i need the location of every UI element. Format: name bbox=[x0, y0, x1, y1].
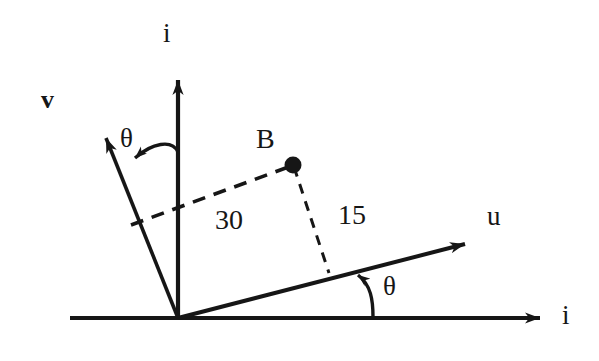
diagram-canvas bbox=[0, 0, 599, 361]
distance-15-dashed-line bbox=[294, 167, 329, 273]
horizontal-i-axis-label: i bbox=[562, 302, 570, 329]
upper-theta-arc bbox=[135, 144, 178, 158]
point-b-label: B bbox=[256, 125, 275, 153]
lower-theta-arc bbox=[358, 275, 373, 317]
vector-diagram: i i u v B θ θ 30 15 bbox=[0, 0, 599, 361]
v-axis-line bbox=[106, 138, 178, 318]
distance-30-label: 30 bbox=[215, 206, 243, 234]
vertical-i-axis-label: i bbox=[163, 20, 171, 47]
v-axis-label: v bbox=[41, 87, 54, 113]
u-axis-line bbox=[178, 244, 465, 318]
point-b-marker bbox=[285, 157, 302, 174]
distance-15-label: 15 bbox=[338, 201, 366, 229]
upper-theta-label: θ bbox=[120, 125, 133, 152]
distance-30-dashed-line bbox=[131, 166, 291, 225]
u-axis-label: u bbox=[487, 203, 501, 230]
lower-theta-label: θ bbox=[383, 273, 396, 300]
